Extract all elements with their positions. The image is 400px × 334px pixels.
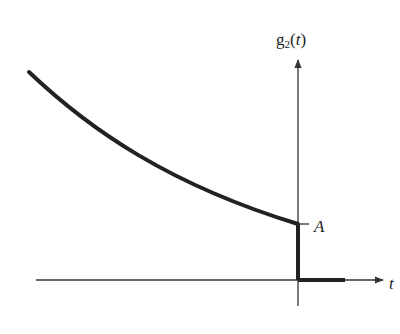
y-axis-label: g2(t) [276,30,306,50]
signal-diagram: A t g2(t) [0,0,400,334]
level-a-label: A [313,217,325,236]
diagram-svg: A t g2(t) [0,0,400,334]
signal-curve [29,72,298,224]
x-axis-label: t [389,274,395,293]
